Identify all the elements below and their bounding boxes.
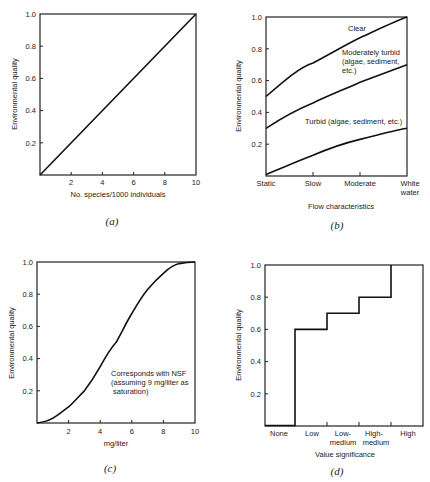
x-category: water bbox=[400, 188, 420, 197]
x-category: High- bbox=[365, 429, 383, 438]
plot-frame bbox=[266, 17, 407, 176]
annotation-note: Corresponds with NSF bbox=[111, 369, 187, 378]
chart-a: 0.2 0.4 0.6 0.8 1.0 2 4 6 8 10 No. speci… bbox=[10, 10, 200, 228]
y-tick: 0.6 bbox=[23, 322, 33, 331]
y-axis-label: Environmental quality bbox=[10, 58, 19, 130]
y-tick: 0.4 bbox=[251, 357, 261, 366]
annotation-moderately-turbid: (algae, sediment, bbox=[342, 57, 400, 66]
chart-b: 0.2 0.4 0.6 0.8 1.0 Static Slow Moderate… bbox=[234, 13, 420, 232]
y-tick: 0.2 bbox=[23, 387, 33, 396]
caption: (a) bbox=[106, 215, 119, 228]
y-tick: 0.6 bbox=[26, 74, 36, 83]
x-category: Low- bbox=[335, 429, 352, 438]
y-tick: 0.2 bbox=[251, 390, 261, 399]
y-tick: 0.8 bbox=[251, 293, 261, 302]
caption: (b) bbox=[331, 219, 344, 232]
x-category: Static bbox=[257, 179, 276, 188]
y-tick: 1.0 bbox=[252, 13, 262, 22]
y-tick: 0.6 bbox=[252, 76, 262, 85]
y-tick: 0.8 bbox=[26, 42, 36, 51]
x-tick: 2 bbox=[69, 178, 73, 187]
annotation-note: (assuming 9 mg/liter as bbox=[111, 378, 189, 387]
x-category: medium bbox=[330, 438, 357, 447]
x-tick: 8 bbox=[161, 427, 165, 436]
y-tick: 0.4 bbox=[252, 108, 262, 117]
x-category: None bbox=[270, 429, 288, 438]
x-category: Slow bbox=[305, 179, 322, 188]
y-tick: 1.0 bbox=[23, 258, 33, 267]
caption: (d) bbox=[331, 465, 344, 478]
data-line bbox=[40, 14, 196, 175]
annotation-turbid: Turbid (algae, sediment, etc.) bbox=[305, 117, 403, 126]
x-tick: 8 bbox=[163, 178, 167, 187]
x-tick: 6 bbox=[130, 427, 134, 436]
x-tick: 10 bbox=[191, 427, 199, 436]
x-category: White bbox=[400, 179, 419, 188]
plot-frame bbox=[265, 265, 423, 426]
y-axis-label: Environmental quality bbox=[234, 309, 243, 381]
y-tick: 0.2 bbox=[26, 139, 36, 148]
caption: (c) bbox=[104, 462, 117, 475]
y-tick: 0.4 bbox=[26, 106, 36, 115]
y-tick: 1.0 bbox=[26, 10, 36, 19]
data-step-line bbox=[265, 265, 391, 426]
y-tick: 0.4 bbox=[23, 354, 33, 363]
x-axis-label: No. species/1000 individuals bbox=[70, 190, 165, 199]
chart-d: 0.2 0.4 0.6 0.8 1.0 None Low Low- medium… bbox=[234, 261, 423, 478]
y-tick: 0.6 bbox=[251, 325, 261, 334]
data-curve bbox=[37, 262, 195, 423]
figure-canvas: 0.2 0.4 0.6 0.8 1.0 2 4 6 8 10 No. speci… bbox=[0, 0, 430, 482]
y-tick: 0.2 bbox=[252, 140, 262, 149]
x-axis-label: Flow characteristics bbox=[308, 202, 374, 211]
x-category: Moderate bbox=[344, 179, 376, 188]
x-category: Low bbox=[305, 429, 319, 438]
annotation-note: saturation) bbox=[113, 387, 149, 396]
x-tick: 4 bbox=[98, 427, 102, 436]
x-tick: 2 bbox=[67, 427, 71, 436]
x-tick: 10 bbox=[192, 178, 200, 187]
y-tick: 0.8 bbox=[23, 290, 33, 299]
x-category: medium bbox=[363, 438, 390, 447]
annotation-moderately-turbid: Moderately turbid bbox=[342, 48, 400, 57]
x-axis-label: mg/liter bbox=[104, 439, 129, 448]
series-turbid bbox=[266, 128, 407, 174]
x-tick: 4 bbox=[100, 178, 104, 187]
y-axis-label: Environmental quality bbox=[7, 307, 16, 379]
y-axis-label: Environmental quality bbox=[234, 60, 243, 132]
x-axis-label: Value significance bbox=[315, 450, 375, 459]
y-tick: 0.8 bbox=[252, 45, 262, 54]
chart-c: 0.2 0.4 0.6 0.8 1.0 2 4 6 8 10 mg/liter … bbox=[7, 258, 199, 475]
y-tick: 1.0 bbox=[251, 261, 261, 270]
annotation-clear: Clear bbox=[348, 24, 366, 33]
annotation-moderately-turbid: etc.) bbox=[342, 66, 357, 75]
x-category: High bbox=[400, 429, 415, 438]
x-tick: 6 bbox=[132, 178, 136, 187]
